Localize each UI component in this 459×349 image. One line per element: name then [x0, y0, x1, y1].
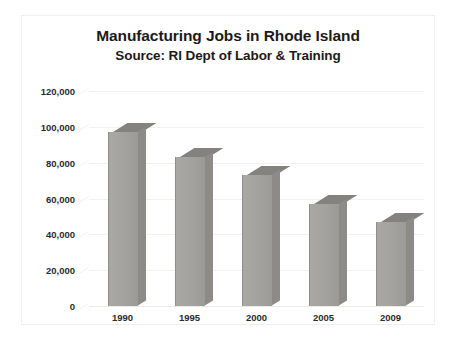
chart-subtitle: Source: RI Dept of Labor & Training — [22, 46, 434, 65]
gridline-depth-edge — [79, 303, 89, 310]
gridline-depth-edge — [79, 88, 89, 95]
bar-column — [108, 132, 137, 306]
y-axis-tick-label: 60,000 — [46, 193, 75, 204]
chart-container: Manufacturing Jobs in Rhode Island Sourc… — [21, 15, 435, 325]
gridline-depth-edge — [79, 196, 89, 203]
gridline-depth-edge — [79, 267, 89, 274]
bars-layer — [89, 91, 424, 306]
y-axis-tick-label: 40,000 — [46, 229, 75, 240]
x-axis-tick-label: 2009 — [380, 312, 401, 323]
bar-front-face — [376, 222, 406, 306]
x-axis-labels: 19901995200020052009 — [89, 312, 424, 330]
chart-title-block: Manufacturing Jobs in Rhode Island Sourc… — [22, 26, 434, 65]
x-axis-tick-label: 1995 — [179, 312, 200, 323]
bar-column — [376, 222, 405, 306]
bar-column — [175, 157, 204, 306]
y-axis-tick-label: 120,000 — [41, 86, 75, 97]
gridline-depth-edge — [79, 160, 89, 167]
bar-column — [242, 175, 271, 306]
bar-column — [309, 204, 338, 306]
bar-top-face — [314, 195, 357, 204]
page-title: Manufacturing Jobs in Rhode Island — [22, 26, 434, 46]
x-axis-tick-label: 2005 — [313, 312, 334, 323]
y-axis-labels: 020,00040,00060,00080,000100,000120,000 — [27, 91, 75, 306]
bar-side-face — [137, 127, 146, 306]
axis-baseline — [89, 306, 424, 307]
y-axis-tick-label: 20,000 — [46, 265, 75, 276]
bar-front-face — [108, 132, 138, 306]
plot-area: 020,00040,00060,00080,000100,000120,000 … — [79, 91, 424, 306]
bar-side-face — [204, 152, 213, 306]
bar-front-face — [242, 175, 272, 306]
y-axis-tick-label: 0 — [70, 301, 75, 312]
y-axis-tick-label: 80,000 — [46, 157, 75, 168]
bar-side-face — [405, 216, 414, 306]
bar-front-face — [309, 204, 339, 306]
bar-top-face — [381, 213, 424, 222]
bar-top-face — [113, 123, 156, 132]
x-axis-tick-label: 1990 — [112, 312, 133, 323]
bar-top-face — [247, 166, 290, 175]
bar-side-face — [271, 170, 280, 306]
bar-side-face — [338, 198, 347, 306]
x-axis-tick-label: 2000 — [246, 312, 267, 323]
bar-top-face — [180, 148, 223, 157]
bar-front-face — [175, 157, 205, 306]
gridline-depth-edge — [79, 232, 89, 239]
gridline-depth-edge — [79, 124, 89, 131]
y-axis-tick-label: 100,000 — [41, 121, 75, 132]
